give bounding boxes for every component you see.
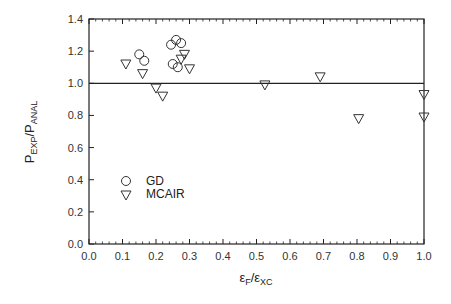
legend-triangle-icon	[121, 191, 131, 200]
legend-circle-icon	[122, 177, 131, 186]
gd-point-circle-icon	[140, 56, 149, 65]
plot-area	[89, 19, 424, 244]
plot-frame	[89, 19, 424, 244]
x-tick-label: 0.9	[383, 250, 398, 262]
y-tick-label: 0.0	[68, 238, 83, 250]
x-tick-label: 1.0	[416, 250, 431, 262]
legend-label-gd: GD	[146, 174, 164, 188]
y-axis: 0.00.20.40.60.81.01.21.4	[68, 13, 94, 250]
y-axis-title: PEXP/PANAL	[22, 101, 39, 164]
legend-label-mcair: MCAIR	[146, 187, 185, 201]
y-tick-label: 0.6	[68, 142, 83, 154]
mcair-point-triangle-icon	[158, 92, 168, 101]
mcair-point-triangle-icon	[354, 115, 364, 124]
x-tick-label: 0.6	[282, 250, 297, 262]
data-points	[121, 35, 429, 123]
x-tick-label: 0.3	[182, 250, 197, 262]
x-tick-label: 0.2	[148, 250, 163, 262]
x-tick-label: 0.1	[115, 250, 130, 262]
gd-point-circle-icon	[167, 40, 176, 49]
legend: GD MCAIR	[121, 174, 185, 201]
y-tick-label: 0.4	[68, 174, 83, 186]
x-tick-label: 0.7	[316, 250, 331, 262]
x-axis: 0.00.10.20.30.40.50.60.70.80.91.0	[81, 19, 431, 262]
mcair-point-triangle-icon	[315, 73, 325, 82]
y-tick-label: 0.2	[68, 206, 83, 218]
gd-point-circle-icon	[172, 35, 181, 44]
mcair-point-triangle-icon	[121, 60, 131, 69]
x-tick-label: 0.8	[349, 250, 364, 262]
y-tick-label: 1.2	[68, 45, 83, 57]
x-tick-label: 0.4	[215, 250, 230, 262]
y-tick-label: 1.4	[68, 13, 83, 25]
y-tick-label: 0.8	[68, 109, 83, 121]
gd-point-circle-icon	[177, 39, 186, 48]
gd-point-circle-icon	[135, 50, 144, 59]
x-tick-label: 0.0	[81, 250, 96, 262]
mcair-point-triangle-icon	[138, 70, 148, 79]
chart: 0.00.10.20.30.40.50.60.70.80.91.0 0.00.2…	[0, 0, 451, 304]
y-tick-label: 1.0	[68, 77, 83, 89]
x-tick-label: 0.5	[249, 250, 264, 262]
mcair-point-triangle-icon	[185, 65, 195, 74]
x-axis-title: εF/εXC	[239, 270, 273, 287]
gd-point-circle-icon	[168, 60, 177, 69]
mcair-point-triangle-icon	[260, 81, 270, 90]
